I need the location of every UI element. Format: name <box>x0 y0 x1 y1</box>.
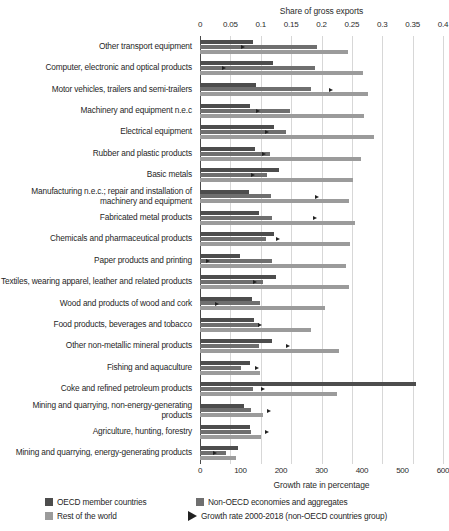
bar-oecd <box>200 168 279 172</box>
bar-group <box>200 318 443 332</box>
bar-group <box>200 211 443 225</box>
axis-tick-label: 200 <box>275 466 288 475</box>
growth-rate-marker-icon <box>206 259 210 263</box>
legend-swatch-non-oecd <box>196 498 204 506</box>
bar-oecd <box>200 275 276 279</box>
category-label: Food products, beverages and tobacco <box>0 320 192 330</box>
plot-area <box>200 36 443 464</box>
growth-rate-marker-icon <box>267 409 271 413</box>
legend-label-growth-rate: Growth rate 2000-2018 (non-OECD countrie… <box>201 511 387 521</box>
bar-rest-of-world <box>200 306 325 310</box>
bar-non-oecd <box>200 237 266 241</box>
bar-oecd <box>200 104 250 108</box>
growth-rate-marker-icon <box>251 173 255 177</box>
bar-oecd <box>200 425 250 429</box>
top-axis-title: Share of gross exports <box>200 6 443 16</box>
category-label: Textiles, wearing apparel, leather and r… <box>0 277 192 287</box>
bar-group <box>200 147 443 161</box>
gridline <box>230 36 231 464</box>
bar-group <box>200 104 443 118</box>
growth-rate-marker-icon <box>313 216 317 220</box>
bar-oecd <box>200 40 253 44</box>
axis-tick-label: 0.4 <box>438 20 449 29</box>
axis-tick-label: 0.2 <box>316 20 327 29</box>
category-label: Mining and quarrying, energy-generating … <box>0 448 192 458</box>
bar-non-oecd <box>200 408 251 412</box>
growth-rate-marker-icon <box>253 280 257 284</box>
category-label: Fabricated metal products <box>0 213 192 223</box>
bar-non-oecd <box>200 366 241 370</box>
bar-oecd <box>200 232 274 236</box>
legend: OECD member countries Non-OECD economies… <box>0 496 443 530</box>
bar-oecd <box>200 147 255 151</box>
bar-group <box>200 382 443 396</box>
growth-rate-marker-icon <box>256 109 260 113</box>
category-label: Manufacturing n.e.c.; repair and install… <box>0 187 192 206</box>
growth-rate-marker-icon <box>265 430 269 434</box>
category-label: Fishing and aquaculture <box>0 363 192 373</box>
bar-rest-of-world <box>200 264 346 268</box>
gridline <box>261 36 262 464</box>
axis-tick-label: 600 <box>437 466 449 475</box>
bar-group <box>200 232 443 246</box>
gridline <box>322 36 323 464</box>
bottom-axis-ticks: 0100200300400500600 <box>0 466 443 477</box>
growth-rate-marker-icon <box>261 387 265 391</box>
bar-oecd <box>200 211 259 215</box>
growth-rate-marker-icon <box>265 130 269 134</box>
bar-rest-of-world <box>200 114 364 118</box>
bar-group <box>200 339 443 353</box>
category-label: Motor vehicles, trailers and semi-traile… <box>0 85 192 95</box>
axis-tick-label: 0 <box>198 466 202 475</box>
bar-rest-of-world <box>200 413 263 417</box>
legend-item-non-oecd: Non-OECD economies and aggregates <box>196 497 347 507</box>
bar-group <box>200 361 443 375</box>
bar-oecd <box>200 83 256 87</box>
growth-rate-marker-icon <box>262 152 266 156</box>
bar-rest-of-world <box>200 392 337 396</box>
gridline <box>382 36 383 464</box>
category-label: Paper products and printing <box>0 256 192 266</box>
bar-oecd <box>200 297 252 301</box>
category-label: Other non-metallic mineral products <box>0 341 192 351</box>
bar-rest-of-world <box>200 135 374 139</box>
bar-rest-of-world <box>200 435 261 439</box>
bar-oecd <box>200 361 250 365</box>
category-label: Wood and products of wood and cork <box>0 299 192 309</box>
bar-rest-of-world <box>200 178 353 182</box>
bar-oecd <box>200 125 274 129</box>
category-label: Machinery and equipment n.e.c <box>0 106 192 116</box>
growth-rate-marker-icon <box>213 451 217 455</box>
bar-rest-of-world <box>200 285 349 289</box>
growth-rate-marker-icon <box>241 45 245 49</box>
legend-swatch-rest-of-world <box>45 512 53 520</box>
axis-tick-label: 0.25 <box>344 20 359 29</box>
bar-non-oecd <box>200 323 259 327</box>
growth-rate-marker-icon <box>329 88 333 92</box>
bar-non-oecd <box>200 216 272 220</box>
growth-rate-marker-icon <box>276 237 280 241</box>
axis-tick-label: 300 <box>315 466 328 475</box>
axis-tick-label: 0.35 <box>405 20 420 29</box>
bar-group <box>200 275 443 289</box>
bar-group <box>200 446 443 460</box>
bar-oecd <box>200 190 249 194</box>
axis-tick-label: 400 <box>356 466 369 475</box>
growth-rate-marker-icon <box>222 66 226 70</box>
category-label: Electrical equipment <box>0 127 192 137</box>
bar-oecd <box>200 382 416 386</box>
bar-oecd <box>200 446 238 450</box>
axis-tick-label: 500 <box>396 466 409 475</box>
bar-rest-of-world <box>200 50 348 54</box>
bar-non-oecd <box>200 152 270 156</box>
bar-group <box>200 425 443 439</box>
axis-tick-label: 0.1 <box>255 20 266 29</box>
bar-oecd <box>200 404 244 408</box>
bar-non-oecd <box>200 301 260 305</box>
bar-rest-of-world <box>200 71 363 75</box>
legend-swatch-oecd <box>45 498 53 506</box>
category-label: Rubber and plastic products <box>0 149 192 159</box>
bar-non-oecd <box>200 173 267 177</box>
bar-group <box>200 404 443 418</box>
growth-rate-marker-icon <box>286 344 290 348</box>
